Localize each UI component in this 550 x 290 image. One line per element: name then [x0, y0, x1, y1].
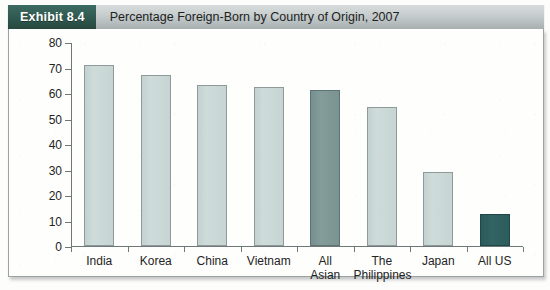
y-axis-tick-label: 40	[49, 138, 62, 152]
exhibit-figure: Exhibit 8.4 Percentage Foreign-Born by C…	[0, 0, 550, 290]
y-axis-tick	[65, 145, 71, 146]
x-axis-label: Vietnam	[241, 254, 298, 268]
x-axis-tick	[128, 247, 129, 252]
chart-frame: 01020304050607080 IndiaKoreaChinaVietnam…	[8, 29, 544, 277]
x-axis-label: Japan	[410, 254, 467, 268]
bar-all-asian	[310, 90, 340, 246]
y-axis-tick	[65, 94, 71, 95]
y-axis-tick	[65, 222, 71, 223]
x-axis-label: India	[71, 254, 128, 268]
bar-korea	[141, 75, 171, 246]
bar-the-philippines	[367, 107, 397, 246]
x-axis-tick	[410, 247, 411, 252]
x-axis-tick	[523, 247, 524, 252]
x-axis-tick	[467, 247, 468, 252]
x-axis-tick	[71, 247, 72, 252]
y-axis-tick-label: 50	[49, 113, 62, 127]
y-axis-tick-label: 20	[49, 189, 62, 203]
bar-china	[197, 85, 227, 246]
x-axis-label: AllAsian	[297, 254, 354, 282]
bar-all-us	[480, 214, 510, 246]
y-axis-tick-label: 10	[49, 215, 62, 229]
x-axis-label: China	[184, 254, 241, 268]
plot-area: 01020304050607080	[71, 43, 523, 247]
y-axis-tick-label: 60	[49, 87, 62, 101]
bar-india	[84, 65, 114, 246]
exhibit-title: Percentage Foreign-Born by Country of Or…	[96, 5, 400, 29]
bar-vietnam	[254, 87, 284, 246]
x-axis-tick	[241, 247, 242, 252]
y-axis-tick-label: 30	[49, 164, 62, 178]
x-axis-label: ThePhilippines	[354, 254, 411, 282]
x-axis-tick	[184, 247, 185, 252]
y-axis-tick	[65, 69, 71, 70]
y-axis-tick	[65, 196, 71, 197]
y-axis-tick	[65, 43, 71, 44]
y-axis-tick	[65, 120, 71, 121]
x-axis-label: All US	[467, 254, 524, 268]
bar-japan	[423, 172, 453, 246]
x-axis-tick	[354, 247, 355, 252]
y-axis-tick-label: 0	[55, 240, 62, 254]
y-axis-tick-label: 80	[49, 36, 62, 50]
y-axis-tick-label: 70	[49, 62, 62, 76]
x-axis-tick	[297, 247, 298, 252]
y-axis-tick	[65, 171, 71, 172]
exhibit-number-badge: Exhibit 8.4	[8, 5, 96, 29]
x-axis-label: Korea	[128, 254, 185, 268]
y-axis-line	[71, 43, 72, 247]
exhibit-header-band: Exhibit 8.4 Percentage Foreign-Born by C…	[8, 5, 544, 29]
